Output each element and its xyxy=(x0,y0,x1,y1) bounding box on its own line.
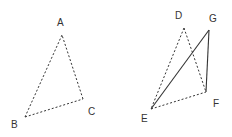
label-f: F xyxy=(213,98,219,109)
figure-defg: D E F G xyxy=(141,10,219,124)
label-b: B xyxy=(11,119,18,130)
segment-de xyxy=(151,28,184,109)
geometry-diagram: A B C D E F G xyxy=(0,0,232,137)
segment-eg xyxy=(151,30,209,109)
label-e: E xyxy=(141,113,148,124)
segment-gf xyxy=(206,30,209,92)
segment-ca xyxy=(62,35,83,99)
label-c: C xyxy=(88,106,95,117)
label-a: A xyxy=(57,17,64,28)
label-d: D xyxy=(175,10,182,21)
triangle-abc: A B C xyxy=(11,17,95,130)
segment-ab xyxy=(25,35,62,117)
segment-ef xyxy=(151,92,206,109)
label-g: G xyxy=(209,13,217,24)
segment-bc xyxy=(25,99,83,117)
